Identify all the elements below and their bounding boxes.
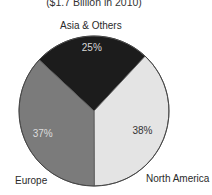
label-asia-others: Asia & Others	[60, 20, 122, 31]
pie-percent-label: 37%	[33, 128, 53, 139]
pie-slices	[19, 36, 169, 186]
pie-percent-label: 38%	[132, 125, 152, 136]
label-north-america: North America	[146, 173, 209, 184]
pie-percent-label: 25%	[82, 42, 102, 53]
label-europe: Europe	[15, 175, 47, 186]
